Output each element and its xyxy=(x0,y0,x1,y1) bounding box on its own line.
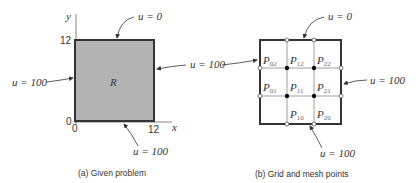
y-axis-label: y xyxy=(65,10,71,22)
b-boundary-top-label: u = 0 xyxy=(328,10,352,22)
label-p20: P20 xyxy=(316,108,331,122)
label-p12: P12 xyxy=(289,54,304,68)
b-arrow-left xyxy=(222,60,257,65)
boundary-bottom-label: u = 100 xyxy=(133,145,168,157)
label-p02: P02 xyxy=(262,54,277,68)
panel-a-given-problem: y x R 12 0 0 12 u = 0 u = 100 u = 100 u … xyxy=(12,10,225,178)
b-arrow-top xyxy=(304,17,324,38)
boundary-points xyxy=(258,38,343,126)
diagram-canvas: y x R 12 0 0 12 u = 0 u = 100 u = 100 u … xyxy=(0,0,418,183)
label-p11: P11 xyxy=(289,81,304,95)
caption-b: (b) Grid and mesh points xyxy=(255,169,349,179)
region-label: R xyxy=(109,76,117,88)
b-arrow-right xyxy=(344,80,367,84)
arrow-bottom xyxy=(124,124,138,146)
b-boundary-bottom-label: u = 100 xyxy=(320,147,355,159)
tick-y-12: 12 xyxy=(60,35,72,46)
panel-b-grid-and-mesh: P02 P12 P22 P01 P11 P21 P10 P20 u = 0 u … xyxy=(222,10,405,179)
boundary-top-label: u = 0 xyxy=(138,10,162,22)
grid-border xyxy=(260,40,341,124)
label-p21: P21 xyxy=(316,81,331,95)
boundary-right-label: u = 100 xyxy=(190,58,225,70)
arrow-top xyxy=(117,17,134,38)
tick-x-12: 12 xyxy=(148,124,160,135)
label-p10: P10 xyxy=(289,108,304,122)
arrow-right xyxy=(157,65,186,69)
x-axis-label: x xyxy=(171,121,177,133)
boundary-left-label: u = 100 xyxy=(12,76,47,88)
b-arrow-bottom xyxy=(310,126,322,148)
caption-a: (a) Given problem xyxy=(78,168,146,178)
arrow-left xyxy=(47,78,73,82)
tick-origin-x: 0 xyxy=(72,123,78,134)
label-p22: P22 xyxy=(316,54,331,68)
b-boundary-right-label: u = 100 xyxy=(370,74,405,86)
label-p01: P01 xyxy=(262,81,277,95)
